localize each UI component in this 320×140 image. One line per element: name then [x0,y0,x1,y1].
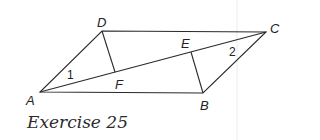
vertex-label-d: D [97,15,106,30]
figure-caption: Exercise 25 [27,112,128,132]
vertex-label-b: B [200,98,209,113]
point-label-f: F [115,77,124,92]
vertex-label-a: A [25,93,35,108]
segment-df [102,31,115,72]
angle-label-1: 1 [67,68,74,82]
segment-be [191,52,203,93]
diagonal-ac [40,32,266,92]
angle-label-2: 2 [229,45,236,59]
point-label-e: E [181,36,190,51]
vertex-label-c: C [270,21,280,36]
